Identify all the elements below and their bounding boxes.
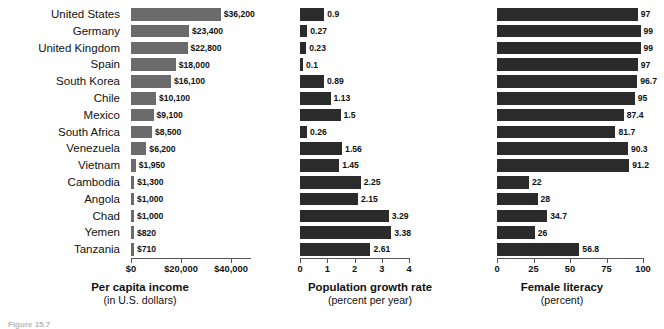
bar-row: 96.7 [497, 73, 642, 90]
bar [131, 126, 152, 139]
bar [300, 243, 370, 256]
axis-tick [643, 258, 644, 263]
bar-row: $1,300 [131, 174, 250, 191]
bar-value-label: 91.2 [632, 159, 649, 171]
bar-row: 28 [497, 191, 642, 208]
axis-tick [382, 258, 383, 263]
bar-row: 97 [497, 6, 642, 23]
bar [497, 126, 615, 139]
bar-value-label: 1.13 [334, 92, 351, 104]
bar [497, 42, 641, 55]
axis-tick [409, 258, 410, 263]
bar-value-label: $9,100 [157, 109, 183, 121]
bar [497, 75, 637, 88]
bar-row: 2.25 [300, 174, 408, 191]
bar-value-label: 56.8 [582, 243, 599, 255]
bar-row: $22,800 [131, 40, 250, 57]
bar-row: $10,100 [131, 90, 250, 107]
bar-row: $9,100 [131, 107, 250, 124]
bar [497, 92, 635, 105]
country-label: Cambodia [0, 174, 126, 191]
bar-row: $36,200 [131, 6, 250, 23]
bar-value-label: 2.61 [373, 243, 390, 255]
axis-tick-label: 0 [494, 264, 499, 274]
country-label: Mexico [0, 107, 126, 124]
bar-value-label: 28 [541, 193, 551, 205]
bar [300, 58, 303, 71]
bar-row: $8,500 [131, 124, 250, 141]
axis-tick [327, 258, 328, 263]
bar-value-label: $22,800 [191, 42, 222, 54]
bar-value-label: 2.15 [361, 193, 378, 205]
bar [300, 176, 361, 189]
bar-value-label: 3.29 [392, 210, 409, 222]
bar-row: 3.29 [300, 208, 408, 225]
bar [497, 243, 579, 256]
axis-tick [131, 258, 132, 263]
bar-row: 81.7 [497, 124, 642, 141]
plot-area-population-growth-rate: 0.90.270.230.10.891.131.50.261.561.452.2… [300, 6, 408, 258]
bar-value-label: 26 [538, 227, 548, 239]
bar-row: 22 [497, 174, 642, 191]
bar-value-label: 1.45 [342, 159, 359, 171]
bar-value-label: 90.3 [631, 143, 648, 155]
bar-value-label: $10,100 [159, 92, 190, 104]
bar-row: 90.3 [497, 140, 642, 157]
bar-row: 56.8 [497, 241, 642, 258]
axis-title-main: Per capita income [0, 281, 280, 293]
bar [131, 75, 171, 88]
bar-row: $710 [131, 241, 250, 258]
axis-tick-label: 1 [325, 264, 330, 274]
country-label-column: United StatesGermanyUnited KingdomSpainS… [0, 6, 126, 258]
country-label: Chile [0, 90, 126, 107]
bar [497, 226, 535, 239]
bar-value-label: $1,950 [139, 159, 165, 171]
axis-tick-label: $0 [126, 264, 136, 274]
bar-row: $23,400 [131, 23, 250, 40]
bar-row: 0.27 [300, 23, 408, 40]
panel-female-literacy: 9799999796.79587.481.790.391.2222834.726… [460, 0, 664, 328]
bar-value-label: 99 [644, 25, 654, 37]
bar-value-label: $820 [137, 227, 156, 239]
bar-value-label: $8,500 [155, 126, 181, 138]
bar [131, 243, 134, 256]
axis-tick [607, 258, 608, 263]
x-axis-per-capita-income [131, 258, 251, 259]
bar-row: $16,100 [131, 73, 250, 90]
bar-row: $1,000 [131, 208, 250, 225]
bar-value-label: $36,200 [224, 8, 255, 20]
bar [300, 210, 389, 223]
bar [300, 25, 307, 38]
bar [300, 75, 324, 88]
country-label: Chad [0, 208, 126, 225]
country-label: Germany [0, 23, 126, 40]
bar-value-label: 97 [641, 8, 651, 20]
bar-value-label: $1,000 [137, 210, 163, 222]
bar-row: 0.9 [300, 6, 408, 23]
country-label: United Kingdom [0, 40, 126, 57]
bar-row: 0.89 [300, 73, 408, 90]
bar-value-label: 0.9 [327, 8, 339, 20]
axis-tick-label: $40,000 [214, 264, 248, 274]
bar [497, 8, 638, 21]
country-label: Venezuela [0, 140, 126, 157]
bar-value-label: 0.23 [309, 42, 326, 54]
bar-value-label: 0.89 [327, 75, 344, 87]
bar-value-label: $1,300 [137, 176, 163, 188]
bar [131, 58, 176, 71]
bar [300, 126, 307, 139]
bar [131, 159, 136, 172]
axis-title-main: Population growth rate [280, 281, 460, 293]
bar-value-label: 1.5 [344, 109, 356, 121]
bar [300, 42, 306, 55]
axis-tick [355, 258, 356, 263]
axis-title-sub: (percent) [460, 294, 664, 306]
bar [497, 210, 547, 223]
bar [300, 159, 339, 172]
bar [497, 58, 638, 71]
bar-value-label: 87.4 [627, 109, 644, 121]
bar-row: 1.5 [300, 107, 408, 124]
bar-row: $1,000 [131, 191, 250, 208]
bar [497, 109, 624, 122]
